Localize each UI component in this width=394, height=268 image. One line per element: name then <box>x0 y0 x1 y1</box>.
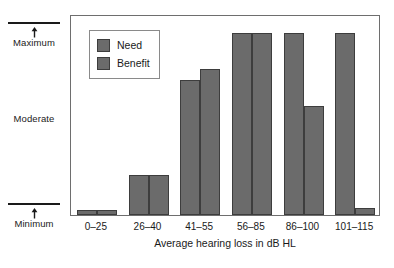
x-axis-tick-label: 41–55 <box>173 220 225 233</box>
bar-chart: Maximum Moderate Minimum NeedBenefit 0–2… <box>0 0 394 268</box>
bar-benefit-0–25 <box>97 210 117 215</box>
y-axis-tick-maximum: Maximum <box>0 16 68 50</box>
plot-area: NeedBenefit <box>70 15 380 216</box>
y-axis-label-maximum: Maximum <box>0 37 68 48</box>
bar-need-86–100 <box>284 33 304 215</box>
bar-benefit-101–115 <box>355 208 375 215</box>
bar-need-41–55 <box>180 80 200 215</box>
bar-group <box>284 16 324 215</box>
bar-group <box>335 16 375 215</box>
bar-benefit-26–40 <box>149 175 169 215</box>
x-axis-tick-label: 101–115 <box>328 220 380 233</box>
y-axis-tick-moderate: Moderate <box>0 113 68 125</box>
legend-item-label: Benefit <box>117 57 150 70</box>
y-axis-maximum-arrow-icon <box>30 24 39 35</box>
legend-item-need: Need <box>97 38 150 54</box>
y-axis-label-moderate: Moderate <box>0 113 68 124</box>
x-axis-tick-label: 56–85 <box>225 220 277 233</box>
y-axis-minimum-arrow-icon <box>30 205 39 216</box>
bar-group <box>180 16 220 215</box>
legend-swatch-icon <box>97 39 110 52</box>
y-axis-tick-minimum: Minimum <box>0 197 68 231</box>
chart-legend: NeedBenefit <box>89 30 160 79</box>
bar-benefit-86–100 <box>304 106 324 215</box>
y-axis-label-minimum: Minimum <box>0 218 68 229</box>
x-axis-tick-labels: 0–2526–4041–5556–8586–100101–115 <box>70 220 380 234</box>
legend-swatch-icon <box>97 57 110 70</box>
legend-item-benefit: Benefit <box>97 55 150 71</box>
bar-need-56–85 <box>232 33 252 215</box>
bar-benefit-41–55 <box>200 69 220 215</box>
bar-need-26–40 <box>129 175 149 215</box>
bar-need-101–115 <box>335 33 355 215</box>
x-axis-tick-label: 26–40 <box>122 220 174 233</box>
legend-item-label: Need <box>117 39 142 52</box>
x-axis-title: Average hearing loss in dB HL <box>70 237 380 250</box>
bar-need-0–25 <box>77 210 97 215</box>
bar-group <box>232 16 272 215</box>
bar-benefit-56–85 <box>252 33 272 215</box>
x-axis-tick-label: 86–100 <box>277 220 329 233</box>
x-axis-tick-label: 0–25 <box>70 220 122 233</box>
